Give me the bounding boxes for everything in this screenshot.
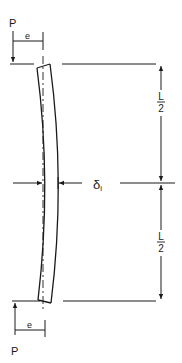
half-length-bottom-denominator: 2 — [158, 243, 164, 254]
top-load-label: P — [9, 17, 16, 29]
deflection-label: δi — [93, 177, 102, 193]
deflection-subscript: i — [100, 184, 102, 193]
top-eccentricity-label: e — [25, 31, 30, 41]
half-length-dimension-top: L 2 — [157, 66, 165, 181]
bottom-eccentricity-label: e — [27, 320, 32, 330]
bottom-load-label: P — [11, 345, 18, 357]
column-diagram: P e δi L 2 L 2 — [0, 0, 182, 363]
column-left-edge — [37, 68, 45, 300]
half-length-dimension-bottom: L 2 — [157, 185, 165, 299]
column-right-edge — [50, 64, 58, 303]
top-load-group: P e — [9, 17, 43, 62]
bottom-load-group: e P — [11, 303, 45, 357]
half-length-bottom-numerator: L — [158, 231, 164, 242]
half-length-top-numerator: L — [158, 91, 164, 102]
column-top-end — [37, 64, 50, 68]
deflection-symbol: δ — [93, 177, 100, 192]
half-length-top-denominator: 2 — [158, 103, 164, 114]
